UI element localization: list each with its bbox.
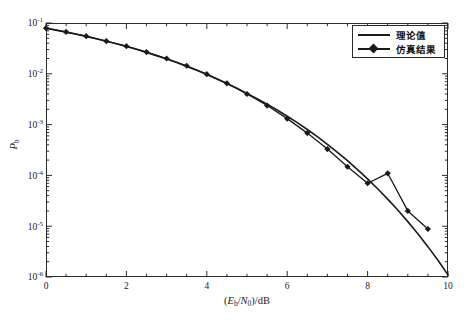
legend-marker-swatch [356, 43, 392, 55]
figure-container: 10-1 10-2 10-3 10-4 10-5 10-6 0 2 4 6 8 … [0, 0, 471, 321]
x-axis-title: (Eb/N0)/dB [46, 295, 448, 308]
data-point-marker [63, 29, 69, 35]
data-point-marker [103, 38, 109, 44]
data-point-marker [143, 49, 149, 55]
data-point-marker [385, 170, 391, 176]
legend-item-theory: 理论值 [356, 28, 441, 42]
x-axis-ticks [46, 271, 448, 277]
data-point-marker [123, 43, 129, 49]
legend: 理论值 仿真结果 [352, 25, 445, 58]
data-point-marker [224, 80, 230, 86]
legend-line-swatch [356, 29, 392, 41]
data-point-marker [83, 33, 89, 39]
y-axis-ticks [46, 23, 52, 277]
diamond-marker-icon [369, 44, 379, 54]
legend-label-simulation: 仿真结果 [392, 44, 436, 55]
series-line-simulation [46, 28, 428, 229]
legend-item-simulation: 仿真结果 [356, 42, 441, 56]
legend-label-theory: 理论值 [392, 30, 426, 41]
series-line-theory [46, 28, 448, 275]
y-axis-title: Pb [8, 125, 21, 165]
y-axis-ticks-right [442, 23, 448, 277]
